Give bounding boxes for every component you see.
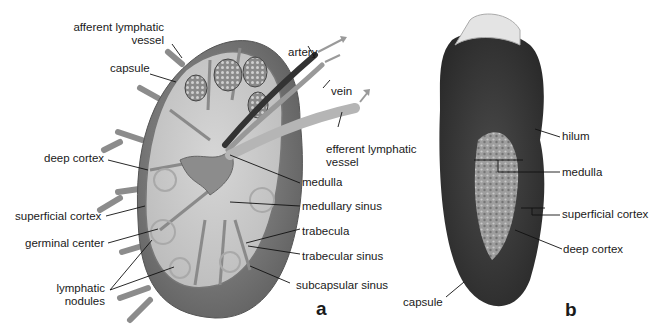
label-efferent-vessel: vessel xyxy=(326,156,359,169)
label-afferent-lymphatic: afferent lymphatic xyxy=(70,21,164,34)
label-hilum: hilum xyxy=(562,130,589,143)
label-nodules: nodules xyxy=(40,295,105,308)
panel-letter-a: a xyxy=(316,299,327,319)
label-lymphatic: lymphatic xyxy=(40,282,105,295)
label-afferent-vessel: vessel xyxy=(70,34,164,47)
lymph-node-figure: afferent lymphatic vessel capsule deep c… xyxy=(0,0,668,327)
label-trabecula: trabecula xyxy=(302,225,349,238)
label-subcapsular-sinus: subcapsular sinus xyxy=(296,279,388,292)
label-trabecular-sinus: trabecular sinus xyxy=(302,250,383,263)
label-artery: artery xyxy=(288,46,317,59)
label-medullary-sinus: medullary sinus xyxy=(302,200,382,213)
label-vein: vein xyxy=(331,85,352,98)
label-medulla: medulla xyxy=(302,176,342,189)
label-efferent-lymphatic: efferent lymphatic xyxy=(326,143,417,156)
panel-letter-b: b xyxy=(565,300,577,320)
label-capsule: capsule xyxy=(110,62,150,75)
label-superficial-cortex: superficial cortex xyxy=(15,210,101,223)
label-b-medulla: medulla xyxy=(562,166,602,179)
label-b-capsule: capsule xyxy=(403,296,443,309)
label-b-superficial-cortex: superficial cortex xyxy=(562,208,648,221)
label-germinal-center: germinal center xyxy=(25,237,104,250)
label-b-deep-cortex: deep cortex xyxy=(563,243,623,256)
label-deep-cortex: deep cortex xyxy=(44,152,104,165)
